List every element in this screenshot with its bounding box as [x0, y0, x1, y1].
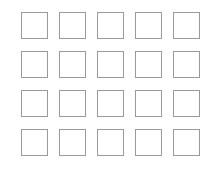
grid-cell-r3-c1[interactable]: [21, 90, 48, 117]
grid-cell-r1-c3[interactable]: [97, 12, 124, 39]
grid-cell-r1-c4[interactable]: [135, 12, 162, 39]
grid-cell-r4-c3[interactable]: [97, 129, 124, 156]
grid-cell-r4-c4[interactable]: [135, 129, 162, 156]
grid-cell-r3-c4[interactable]: [135, 90, 162, 117]
grid-cell-r1-c1[interactable]: [21, 12, 48, 39]
grid-cell-r2-c4[interactable]: [135, 51, 162, 78]
grid-cell-r1-c5[interactable]: [173, 12, 200, 39]
grid-cell-r4-c5[interactable]: [173, 129, 200, 156]
grid-cell-r2-c1[interactable]: [21, 51, 48, 78]
square-grid: [21, 12, 200, 156]
grid-cell-r4-c2[interactable]: [59, 129, 86, 156]
grid-cell-r3-c2[interactable]: [59, 90, 86, 117]
grid-cell-r2-c2[interactable]: [59, 51, 86, 78]
grid-cell-r3-c3[interactable]: [97, 90, 124, 117]
grid-cell-r2-c5[interactable]: [173, 51, 200, 78]
grid-cell-r4-c1[interactable]: [21, 129, 48, 156]
grid-cell-r1-c2[interactable]: [59, 12, 86, 39]
grid-cell-r2-c3[interactable]: [97, 51, 124, 78]
grid-cell-r3-c5[interactable]: [173, 90, 200, 117]
